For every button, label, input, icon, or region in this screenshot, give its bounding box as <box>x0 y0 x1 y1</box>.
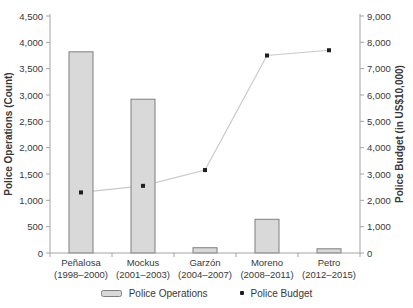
left-axis-tick-label: 3,500 <box>19 63 43 74</box>
left-axis-tick-label: 500 <box>27 221 43 232</box>
left-axis-tick-label: 4,500 <box>19 11 43 22</box>
x-axis-label-name: Garzón <box>189 257 220 268</box>
right-axis-tick-label: 7,000 <box>367 63 391 74</box>
police-budget-marker-2 <box>141 184 145 188</box>
left-axis-tick-label: 3,000 <box>19 90 43 101</box>
x-axis-label-years: (2001–2003) <box>116 269 170 280</box>
police-operations-bar-5 <box>317 249 341 253</box>
legend-item-police-budget: Police Budget <box>240 288 313 299</box>
right-axis-tick-label: 5,000 <box>367 116 391 127</box>
police-operations-bar-2 <box>131 99 155 253</box>
police-operations-bar-4 <box>255 219 279 253</box>
left-axis-title: Police Operations (Count) <box>3 72 14 195</box>
bar-swatch-icon <box>101 290 122 297</box>
police-budget-marker-4 <box>265 54 269 58</box>
chart-legend: Police Operations Police Budget <box>0 285 413 301</box>
x-axis-label-name: Mockus <box>127 257 160 268</box>
right-axis-title: Police Budget (in US$10,000) <box>394 65 405 203</box>
right-axis-tick-label: 6,000 <box>367 90 391 101</box>
right-axis-tick-label: 0 <box>367 248 372 259</box>
dot-marker-icon <box>240 291 244 295</box>
legend-item-police-operations: Police Operations <box>101 288 208 299</box>
x-axis-label-years: (2008–2011) <box>240 269 293 280</box>
right-axis-tick-label: 9,000 <box>367 11 391 22</box>
right-axis-tick-label: 2,000 <box>367 195 391 206</box>
police-operations-bar-1 <box>69 52 93 253</box>
left-axis-tick-label: 2,500 <box>19 116 43 127</box>
x-axis-label-years: (2012–2015) <box>302 269 356 280</box>
x-axis-label-years: (2004–2007) <box>178 269 232 280</box>
police-budget-marker-3 <box>203 168 207 172</box>
right-axis-tick-label: 3,000 <box>367 169 391 180</box>
police-budget-marker-5 <box>327 48 331 52</box>
left-axis-tick-label: 1,500 <box>19 169 43 180</box>
x-axis-label-name: Moreno <box>251 257 283 268</box>
left-axis-tick-label: 1,000 <box>19 195 43 206</box>
right-axis-tick-label: 4,000 <box>367 142 391 153</box>
x-axis-label-name: Peñalosa <box>61 257 101 268</box>
left-axis-tick-label: 4,000 <box>19 37 43 48</box>
right-axis-tick-label: 8,000 <box>367 37 391 48</box>
x-axis-label-name: Petro <box>318 257 341 268</box>
left-axis-tick-label: 2,000 <box>19 142 43 153</box>
legend-label-police-operations: Police Operations <box>129 288 208 299</box>
legend-label-police-budget: Police Budget <box>251 288 313 299</box>
police-operations-bar-3 <box>193 248 217 253</box>
police-operations-budget-chart: 05001,0001,5002,0002,5003,0003,5004,0004… <box>0 0 413 308</box>
right-axis-tick-label: 1,000 <box>367 221 391 232</box>
chart-canvas: 05001,0001,5002,0002,5003,0003,5004,0004… <box>0 0 413 283</box>
x-axis-label-years: (1998–2000) <box>54 269 108 280</box>
left-axis-tick-label: 0 <box>38 248 43 259</box>
police-budget-marker-1 <box>79 190 83 194</box>
